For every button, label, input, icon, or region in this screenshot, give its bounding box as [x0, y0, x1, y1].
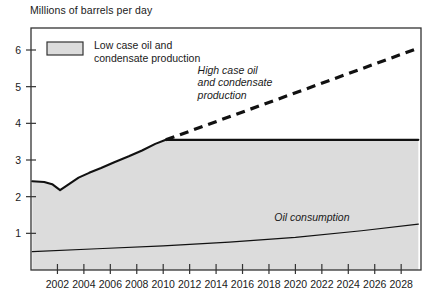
x-tick-label-2008: 2008 — [125, 278, 149, 290]
legend-label-line-1: Low case oil and — [94, 39, 172, 51]
x-tick-label-2028: 2028 — [389, 278, 413, 290]
low-case-area-polygon — [32, 140, 418, 270]
high-case-label-line-3: production — [197, 89, 247, 101]
x-tick-label-2006: 2006 — [99, 278, 123, 290]
x-tick-label-2004: 2004 — [72, 278, 96, 290]
y-tick-label-1: 1 — [15, 227, 21, 239]
oil-production-chart: Millions of barrels per day 123456 20022… — [0, 0, 436, 303]
x-tick-label-2012: 2012 — [178, 278, 202, 290]
legend: Low case oil and condensate production — [47, 39, 200, 64]
legend-swatch-low-case — [47, 42, 83, 55]
x-tick-label-2010: 2010 — [152, 278, 176, 290]
y-tick-label-2: 2 — [15, 191, 21, 203]
plot-area-fill-group — [32, 140, 418, 270]
x-tick-label-2014: 2014 — [204, 278, 228, 290]
x-axis-tick-labels: 2002200420062008201020122014201620182020… — [46, 278, 413, 290]
x-tick-label-2016: 2016 — [231, 278, 255, 290]
high-case-label: High case oiland condensateproduction — [197, 64, 273, 101]
chart-plot-svg: 123456 200220042006200820102012201420162… — [0, 0, 436, 303]
high-case-label-line-2: and condensate — [198, 76, 273, 88]
x-tick-label-2022: 2022 — [310, 278, 334, 290]
y-tick-label-6: 6 — [15, 44, 21, 56]
x-tick-label-2018: 2018 — [257, 278, 281, 290]
x-tick-label-2002: 2002 — [46, 278, 70, 290]
oil-consumption-label: Oil consumption — [274, 211, 349, 223]
x-tick-label-2024: 2024 — [337, 278, 361, 290]
y-axis-tick-labels: 123456 — [15, 44, 21, 239]
legend-label-line-2: condensate production — [94, 52, 200, 64]
high-case-label-line-1: High case oil — [198, 64, 259, 76]
y-tick-label-4: 4 — [15, 117, 21, 129]
x-tick-label-2026: 2026 — [363, 278, 387, 290]
x-tick-label-2020: 2020 — [284, 278, 308, 290]
oil-consumption-label-line-1: Oil consumption — [274, 211, 349, 223]
y-tick-label-5: 5 — [15, 81, 21, 93]
y-tick-label-3: 3 — [15, 154, 21, 166]
